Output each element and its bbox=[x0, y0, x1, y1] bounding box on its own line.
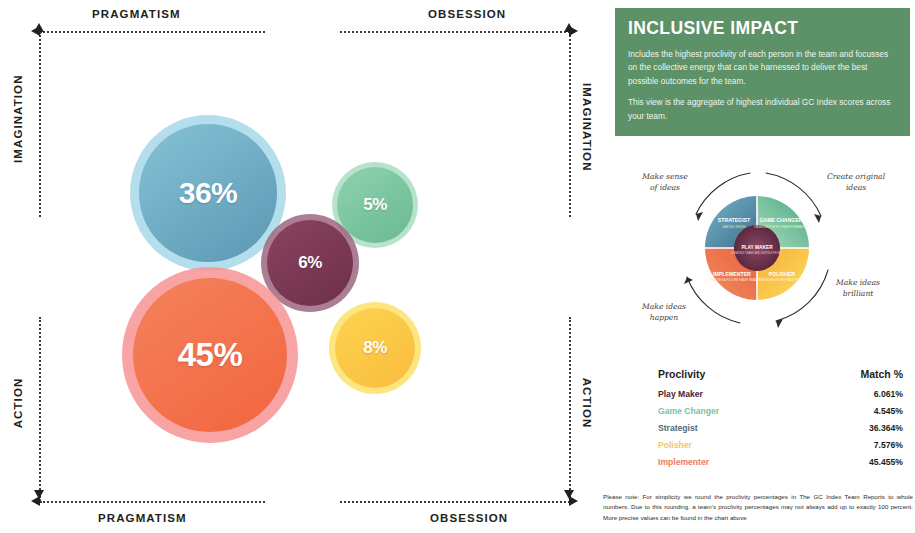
frame-bottom-right-segment bbox=[340, 501, 570, 503]
footnote-rounding-note: Please note: For simplicity we round the… bbox=[603, 492, 913, 523]
cell-match-percent: 6.061% bbox=[802, 386, 903, 403]
wheel-sublabel-strategist: MAKING SENSE bbox=[723, 225, 746, 229]
cell-match-percent: 45.455% bbox=[802, 453, 903, 470]
table-header-row: Proclivity Match % bbox=[658, 368, 903, 386]
wheel-arrowhead-top-right bbox=[814, 214, 821, 223]
arrow-bottom-left-vertical bbox=[34, 490, 44, 499]
report-page: PRAGMATISM OBSESSION PRAGMATISM OBSESSIO… bbox=[0, 0, 915, 533]
proclivity-match-table: Proclivity Match % Play Maker6.061%Game … bbox=[658, 368, 903, 470]
cell-proclivity: Game Changer bbox=[658, 403, 802, 420]
frame-left-top-segment bbox=[39, 32, 41, 217]
wheel-label-play-maker: PLAY MAKER bbox=[741, 245, 773, 250]
arrow-top-right-vertical bbox=[564, 23, 574, 32]
axis-label-left-bottom: ACTION bbox=[12, 369, 24, 437]
axis-label-bottom-left: PRAGMATISM bbox=[98, 512, 187, 524]
wheel-sublabel-polisher: CREATING A FUTURE MADE PERFECT bbox=[754, 278, 809, 282]
axis-label-left-top: IMAGINATION bbox=[12, 83, 24, 163]
cell-match-percent: 4.545% bbox=[802, 403, 903, 420]
table-row: Strategist36.364% bbox=[658, 420, 903, 437]
wheel-sublabel-play-maker: CREATING TEAMS AND UNITING PEOPLE bbox=[730, 251, 783, 255]
bubble-value-label: 45% bbox=[178, 336, 243, 374]
inclusive-impact-paragraph-2: This view is the aggregate of highest in… bbox=[628, 96, 897, 123]
axis-label-right-bottom: ACTION bbox=[581, 369, 593, 437]
cell-proclivity: Implementer bbox=[658, 453, 802, 470]
arrow-bottom-right-vertical bbox=[564, 490, 574, 499]
frame-right-top-segment bbox=[569, 32, 571, 217]
table: Proclivity Match % Play Maker6.061%Game … bbox=[658, 368, 903, 470]
wheel-label-implementer: IMPLEMENTER bbox=[713, 271, 751, 277]
inclusive-impact-card: INCLUSIVE IMPACT Includes the highest pr… bbox=[615, 8, 910, 136]
axis-label-top-left: PRAGMATISM bbox=[92, 8, 181, 20]
table-row: Implementer45.455% bbox=[658, 453, 903, 470]
table-body: Play Maker6.061%Game Changer4.545%Strate… bbox=[658, 386, 903, 470]
arrow-top-left-vertical bbox=[34, 23, 44, 32]
wheel-label-polisher: POLISHER bbox=[769, 271, 796, 277]
frame-right-bottom-segment bbox=[569, 317, 571, 501]
wheel-label-game-changer: GAME CHANGER bbox=[759, 217, 802, 223]
wheel-label-strategist: STRATEGIST bbox=[718, 217, 751, 223]
frame-bottom-left-segment bbox=[40, 501, 265, 503]
bubble-polisher[interactable]: 8% bbox=[329, 302, 421, 394]
wheel-annotation-create-original-ideas: Create original ideas bbox=[814, 172, 898, 194]
column-header-match: Match % bbox=[802, 368, 903, 386]
bubble-value-label: 5% bbox=[363, 195, 387, 215]
bubble-value-label: 36% bbox=[179, 176, 238, 210]
cell-proclivity: Play Maker bbox=[658, 386, 802, 403]
table-row: Polisher7.576% bbox=[658, 436, 903, 453]
table-row: Game Changer4.545% bbox=[658, 403, 903, 420]
axis-label-top-right: OBSESSION bbox=[428, 8, 506, 20]
frame-left-bottom-segment bbox=[39, 317, 41, 501]
wheel-annotation-make-ideas-brilliant: Make ideas brilliant bbox=[818, 278, 898, 300]
bubble-quadrant-chart: PRAGMATISM OBSESSION PRAGMATISM OBSESSIO… bbox=[0, 0, 600, 533]
table-row: Play Maker6.061% bbox=[658, 386, 903, 403]
right-sidebar: INCLUSIVE IMPACT Includes the highest pr… bbox=[600, 0, 915, 533]
inclusive-impact-paragraph-1: Includes the highest proclivity of each … bbox=[628, 48, 897, 88]
wheel-arrowhead-bottom-left bbox=[684, 277, 693, 284]
wheel-annotation-make-sense-of-ideas: Make sense of ideas bbox=[628, 172, 702, 194]
axis-label-right-top: IMAGINATION bbox=[581, 83, 593, 163]
column-header-proclivity: Proclivity bbox=[658, 368, 802, 386]
frame-top-right-segment bbox=[340, 31, 570, 33]
cell-proclivity: Polisher bbox=[658, 436, 802, 453]
wheel-sublabel-implementer: CREATING A FUTURE MADE REAL bbox=[708, 278, 757, 282]
bubble-implementer[interactable]: 45% bbox=[122, 267, 298, 443]
bubble-value-label: 6% bbox=[298, 253, 322, 273]
wheel-arrowhead-top-left bbox=[696, 212, 703, 221]
bubble-value-label: 8% bbox=[363, 338, 387, 358]
wheel-sublabel-game-changer: OBSESSED WITH TRANSFORMATION bbox=[754, 225, 808, 229]
wheel-annotation-make-ideas-happen: Make ideas happen bbox=[624, 302, 704, 324]
cell-proclivity: Strategist bbox=[658, 420, 802, 437]
cell-match-percent: 7.576% bbox=[802, 436, 903, 453]
inclusive-impact-title: INCLUSIVE IMPACT bbox=[628, 18, 897, 39]
axis-label-bottom-right: OBSESSION bbox=[430, 512, 508, 524]
gc-index-wheel-diagram: STRATEGIST MAKING SENSE GAME CHANGER OBS… bbox=[600, 150, 915, 350]
cell-match-percent: 36.364% bbox=[802, 420, 903, 437]
frame-top-left-segment bbox=[40, 31, 265, 33]
